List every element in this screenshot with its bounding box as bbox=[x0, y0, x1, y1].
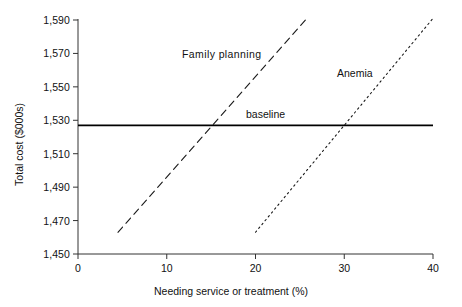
annotation-baseline: baseline bbox=[246, 108, 285, 120]
x-tick-label: 40 bbox=[427, 262, 439, 274]
y-tick-label: 1,550 bbox=[43, 81, 70, 93]
y-tick-label: 1,570 bbox=[43, 47, 70, 59]
y-axis-tick-labels: 1,4501,4701,4901,5101,5301,5501,5701,590 bbox=[0, 0, 70, 307]
x-axis-ticks bbox=[78, 254, 433, 259]
y-tick-label: 1,530 bbox=[43, 114, 70, 126]
y-axis-title: Total cost ($000s) bbox=[13, 103, 25, 186]
x-axis-title: Needing service or treatment (%) bbox=[0, 285, 462, 297]
y-axis-ticks bbox=[73, 20, 78, 254]
x-tick-label: 10 bbox=[161, 262, 173, 274]
x-tick-label: 30 bbox=[338, 262, 350, 274]
x-tick-label: 20 bbox=[250, 262, 262, 274]
y-tick-label: 1,450 bbox=[43, 248, 70, 260]
chart-figure: 1,4501,4701,4901,5101,5301,5501,5701,590… bbox=[0, 0, 462, 307]
y-tick-label: 1,590 bbox=[43, 14, 70, 26]
y-tick-label: 1,510 bbox=[43, 148, 70, 160]
annotation-anemia: Anemia bbox=[337, 67, 373, 79]
annotation-family-planning: Family planning bbox=[182, 48, 262, 60]
y-tick-label: 1,490 bbox=[43, 181, 70, 193]
x-tick-label: 0 bbox=[75, 262, 81, 274]
y-tick-label: 1,470 bbox=[43, 215, 70, 227]
